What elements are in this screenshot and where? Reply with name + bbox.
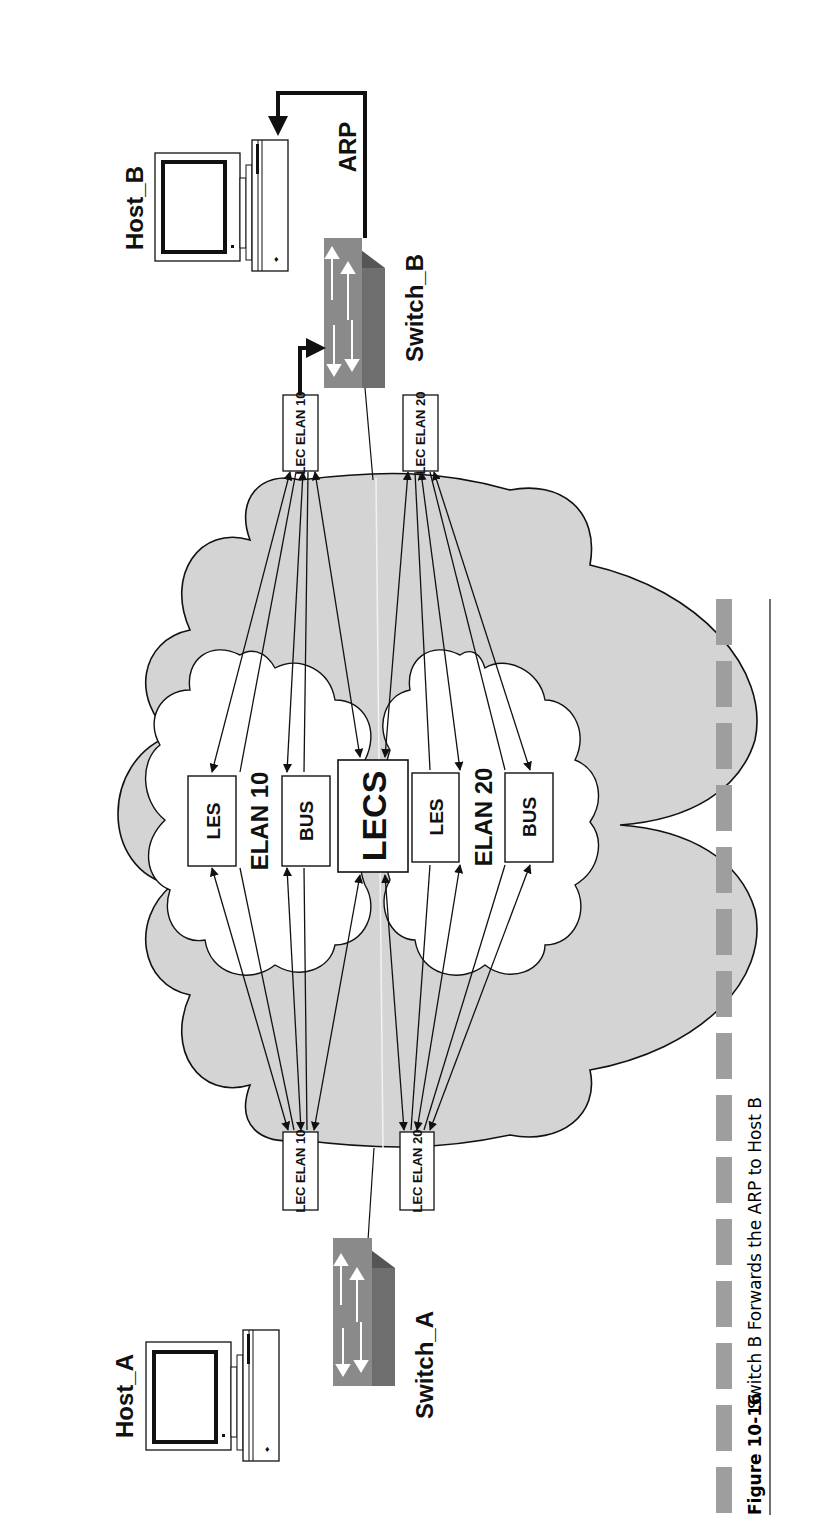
lec-top-elan10: LEC ELAN 10 (283, 391, 318, 474)
host-a-computer-icon: ♦ (146, 1330, 279, 1461)
lecs-box: LECS (338, 760, 408, 872)
svg-text:LEC ELAN 20: LEC ELAN 20 (410, 1129, 425, 1212)
svg-text:LEC ELAN 10: LEC ELAN 10 (293, 1129, 308, 1212)
figure-number: Figure 10-16 (745, 1393, 765, 1515)
lane-diagram: LES ELAN 10 BUS LECS LES ELAN 20 BUS LEC… (0, 0, 817, 1537)
lec-bottom-elan20: LEC ELAN 20 (400, 1129, 434, 1212)
switch-a-label: Switch_A (411, 1311, 438, 1419)
lec-bottom-elan10: LEC ELAN 10 (283, 1129, 318, 1212)
host-b-computer-icon: ♦ (155, 140, 288, 271)
lecs-label: LECS (355, 771, 393, 862)
elan20-les-box: LES (412, 773, 459, 862)
lec-top-elan20: LEC ELAN 20 (403, 391, 438, 474)
elan10-label: ELAN 10 (246, 772, 273, 871)
elan20-label: ELAN 20 (470, 768, 497, 867)
svg-text:♦: ♦ (265, 1444, 270, 1454)
arp-label: ARP (334, 122, 361, 173)
host-b-label: Host_B (121, 166, 148, 250)
svg-text:LEC ELAN 10: LEC ELAN 10 (293, 391, 308, 474)
svg-text:♦: ♦ (274, 254, 279, 264)
switch-b-label: Switch_B (401, 254, 428, 362)
switch-a-icon (333, 1148, 395, 1386)
figure-caption: Switch B Forwards the ARP to Host B (745, 1097, 765, 1409)
elan20-bus-box: BUS (505, 773, 553, 862)
switch-a-uplink (368, 1148, 374, 1240)
elan20-les-label: LES (426, 799, 447, 836)
caption-bars (716, 599, 732, 1513)
elan10-les-box: LES (188, 776, 236, 866)
elan20-bus-label: BUS (519, 797, 540, 837)
elan10-bus-label: BUS (296, 801, 317, 841)
elan10-les-label: LES (203, 803, 224, 840)
elan10-bus-box: BUS (282, 776, 330, 866)
host-a-label: Host_A (111, 1354, 138, 1438)
lec-to-switch-b-arrow (300, 348, 322, 395)
switch-b-icon (324, 238, 385, 480)
svg-text:LEC ELAN 20: LEC ELAN 20 (413, 391, 428, 474)
switch-b-uplink (365, 388, 373, 480)
